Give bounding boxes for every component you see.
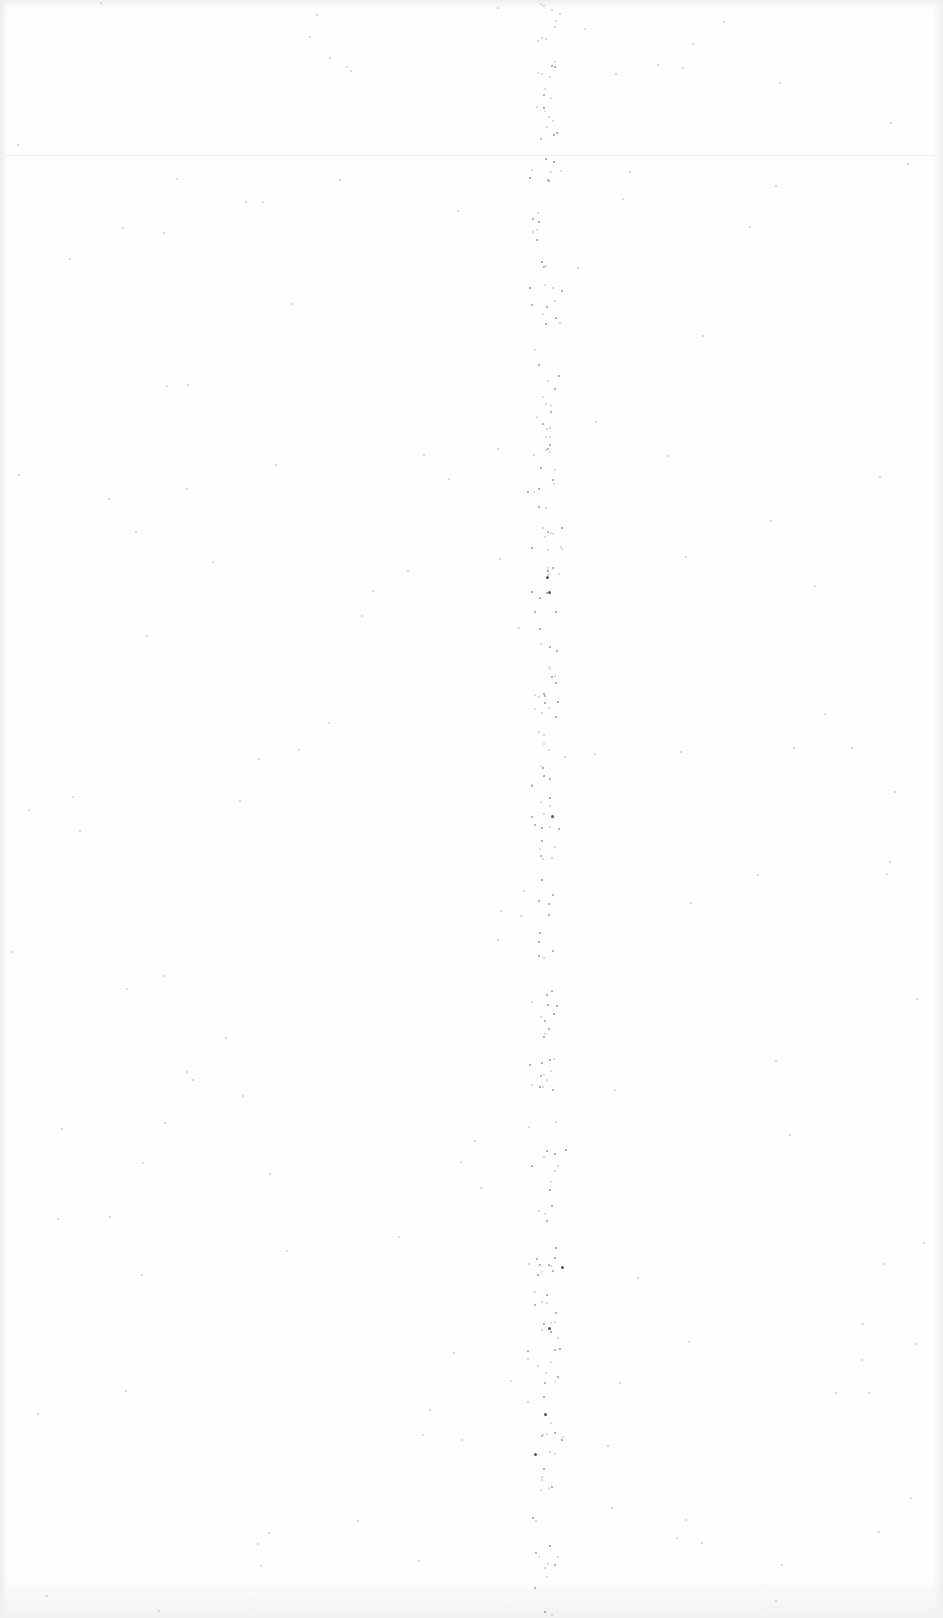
speck: [187, 384, 189, 386]
speck: [429, 1409, 431, 1411]
speck: [164, 1122, 166, 1124]
speck: [545, 38, 547, 40]
speck: [542, 1086, 544, 1088]
speck: [667, 455, 669, 457]
speck: [108, 498, 110, 500]
speck: [543, 1074, 545, 1076]
speck: [549, 1545, 551, 1547]
speck: [546, 1220, 548, 1222]
speck: [357, 1520, 359, 1522]
speck: [548, 749, 550, 751]
speck: [480, 1187, 482, 1189]
speck: [550, 1361, 552, 1363]
speck: [552, 894, 554, 896]
speck: [886, 873, 888, 875]
speck: [544, 110, 546, 112]
speck: [702, 335, 704, 337]
speck: [69, 258, 71, 260]
speck: [474, 1140, 476, 1142]
speck: [536, 416, 538, 418]
speck: [46, 1595, 48, 1597]
speck: [879, 476, 881, 478]
speck: [531, 785, 533, 787]
speck: [546, 576, 549, 579]
speck: [540, 855, 542, 857]
speck: [531, 1001, 533, 1003]
speck: [551, 65, 553, 67]
speck: [551, 1205, 553, 1207]
speck: [534, 1291, 536, 1293]
speck: [555, 1247, 557, 1249]
blank-page: [0, 0, 943, 1618]
speck: [577, 267, 579, 269]
speck: [547, 380, 549, 382]
speck: [889, 861, 891, 863]
speck: [549, 76, 551, 78]
speck: [894, 791, 896, 793]
speck: [309, 36, 311, 38]
speck: [561, 290, 563, 292]
speck: [551, 815, 554, 818]
speck: [545, 265, 547, 267]
speck: [547, 549, 549, 551]
speck: [546, 1433, 548, 1435]
speck: [538, 696, 540, 698]
speck: [554, 1381, 556, 1383]
speck: [527, 1401, 529, 1403]
speck: [561, 527, 563, 529]
speck: [542, 396, 544, 398]
speck: [916, 998, 918, 1000]
speck: [561, 1439, 563, 1441]
speck: [619, 1382, 621, 1384]
speck: [538, 731, 540, 733]
speck: [536, 229, 538, 231]
speck: [534, 611, 536, 613]
speck: [851, 747, 853, 749]
speck: [559, 1348, 561, 1350]
speck: [109, 1216, 111, 1218]
speck: [531, 1084, 533, 1086]
speck: [749, 226, 751, 228]
speck: [554, 61, 556, 63]
speck: [542, 858, 544, 860]
speck: [548, 1327, 551, 1330]
speck: [556, 132, 558, 134]
speck: [552, 567, 554, 569]
faint-fold-line: [0, 155, 943, 156]
speck: [541, 1329, 543, 1331]
speck: [527, 1350, 529, 1352]
speck: [166, 385, 168, 387]
speck: [57, 1218, 59, 1220]
speck: [72, 796, 74, 798]
speck: [554, 846, 556, 848]
speck: [549, 668, 551, 670]
speck: [531, 591, 533, 593]
speck: [534, 1453, 537, 1456]
speck: [268, 1532, 270, 1534]
speck: [497, 448, 499, 450]
speck: [556, 650, 558, 652]
speck: [453, 1352, 455, 1354]
speck: [538, 364, 540, 366]
speck: [532, 1517, 534, 1519]
speck: [539, 628, 541, 630]
speck: [291, 303, 293, 305]
speck: [538, 900, 540, 902]
speck: [542, 423, 544, 425]
speck: [611, 1507, 613, 1509]
speck: [539, 848, 541, 850]
speck: [559, 322, 561, 324]
speck: [540, 467, 542, 469]
speck: [861, 1359, 863, 1361]
speck: [192, 1079, 194, 1081]
speck: [541, 1476, 543, 1478]
speck: [286, 1250, 288, 1252]
speck: [558, 828, 560, 830]
speck: [541, 37, 543, 39]
speck: [535, 1520, 537, 1522]
speck: [555, 1312, 557, 1314]
speck: [542, 767, 544, 769]
speck: [529, 177, 531, 179]
speck: [550, 1331, 552, 1333]
speck: [557, 1165, 559, 1167]
